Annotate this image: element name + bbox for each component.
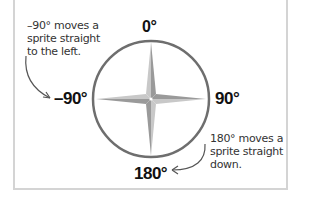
label-90-degrees: 90° [215,89,239,109]
left-annotation: –90° moves a sprite straight to the left… [27,19,107,58]
label-180-degrees: 180° [134,164,167,184]
left-callout-arrow-icon [26,56,50,98]
label-minus-90-degrees: –90° [54,89,87,109]
compass-star-icon [96,42,206,156]
label-0-degrees: 0° [142,18,156,36]
right-annotation: 180° moves a sprite straight down. [210,132,290,171]
right-callout-arrow-icon [172,144,205,174]
